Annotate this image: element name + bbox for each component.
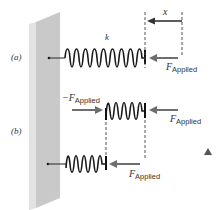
force-subscript: Applied xyxy=(176,117,201,126)
displacement-label: x xyxy=(163,7,167,17)
wall xyxy=(29,12,60,210)
force-arrow-a xyxy=(149,54,178,62)
force-label-b-top: FApplied xyxy=(170,114,201,124)
force-symbol: −F xyxy=(62,92,75,103)
triangle-marker-icon xyxy=(204,148,212,155)
force-label-a: FApplied xyxy=(166,62,197,72)
neg-force-arrow-b xyxy=(72,106,103,114)
spring-force-diagram: (a) k x FApplied (b) −FApplied FApplied … xyxy=(0,0,219,210)
neg-force-label-b: −FApplied xyxy=(62,93,100,103)
displacement-arrow xyxy=(147,18,182,25)
spring-a xyxy=(48,49,145,67)
force-subscript: Applied xyxy=(135,172,160,181)
panel-label-b: (b) xyxy=(11,127,22,136)
spring-b-free xyxy=(106,103,145,120)
force-subscript: Applied xyxy=(75,96,100,105)
panel-label-a: (a) xyxy=(11,53,22,62)
force-label-b-bottom: FApplied xyxy=(129,169,160,179)
diagram-canvas xyxy=(0,0,219,210)
force-subscript: Applied xyxy=(172,65,197,74)
spring-constant-label: k xyxy=(105,33,109,42)
force-arrow-b-bottom xyxy=(109,160,140,168)
